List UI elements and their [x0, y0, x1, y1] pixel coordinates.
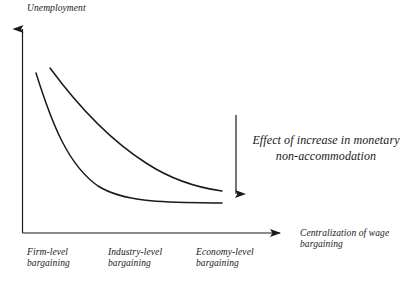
curve-lower [36, 73, 222, 203]
y-axis-title: Unemployment [27, 3, 86, 14]
x-tick-label-firm-level: Firm-level bargaining [27, 247, 70, 269]
curve-upper [50, 68, 222, 191]
economics-figure: Unemployment Centralization of wage barg… [0, 0, 406, 281]
x-tick-label-industry-level: Industry-level bargaining [108, 247, 162, 269]
shift-annotation-label: Effect of increase in monetary non-accom… [248, 133, 404, 164]
x-tick-label-economy-level: Economy-level bargaining [196, 247, 254, 269]
x-axis-title: Centralization of wage bargaining [300, 228, 404, 250]
